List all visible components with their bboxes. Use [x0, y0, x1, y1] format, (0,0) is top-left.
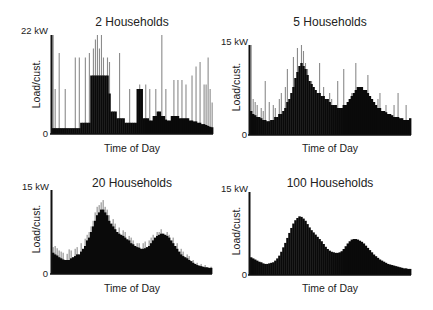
y-zero-label: 0	[28, 128, 48, 139]
spike-bar	[55, 89, 56, 134]
spike-bar	[75, 58, 76, 135]
load-bar	[409, 269, 411, 275]
y-zero-label: 0	[28, 268, 48, 279]
x-axis-label: Time of Day	[82, 142, 182, 154]
load-bar	[409, 118, 411, 135]
bar-plot	[248, 45, 413, 137]
y-zero-label: 0	[227, 269, 247, 280]
x-axis-label: Time of Day	[82, 282, 182, 294]
spike-bar	[89, 53, 90, 134]
y-axis-label: Load/cust.	[230, 196, 242, 266]
y-max-label: 15 kW	[208, 36, 248, 47]
y-max-label: 15 kW	[9, 181, 49, 192]
spike-bar	[85, 58, 86, 135]
panel-title: 2 Households	[72, 15, 192, 29]
y-axis-label: Load/cust.	[230, 52, 242, 122]
bar-plot	[248, 192, 413, 277]
y-axis-label: Load/cust.	[30, 194, 42, 264]
spike-bar	[208, 58, 209, 135]
bar-plot	[50, 190, 214, 276]
y-zero-label: 0	[227, 129, 247, 140]
spike-bar	[53, 35, 54, 134]
x-axis-label: Time of Day	[280, 142, 380, 154]
y-max-label: 22 kW	[8, 25, 48, 36]
y-axis-label: Load/cust.	[30, 49, 42, 119]
bar-plot	[50, 35, 215, 136]
panel-title: 100 Households	[270, 176, 390, 190]
spike-bar	[65, 89, 66, 134]
spike-bar	[79, 58, 80, 135]
y-max-label: 15 kW	[208, 183, 248, 194]
x-axis-label: Time of Day	[280, 282, 380, 294]
panel-title: 5 Households	[270, 15, 390, 29]
spike-bar	[59, 53, 60, 134]
panel-title: 20 Households	[72, 176, 192, 190]
load-bar	[210, 268, 212, 274]
load-bar	[211, 127, 213, 134]
